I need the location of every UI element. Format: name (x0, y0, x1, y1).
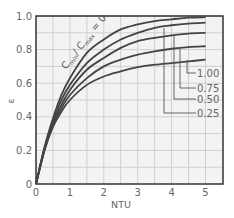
y-axis-ticks: 00.20.40.60.81.0 (16, 11, 32, 190)
y-tick-label: 0.8 (16, 44, 32, 55)
x-axis-ticks: 012345 (33, 187, 209, 198)
y-tick-label: 0 (26, 179, 32, 190)
curve-label: 0.25 (197, 108, 219, 119)
y-axis-label: ε (5, 98, 16, 103)
curve-label: 0.75 (197, 83, 219, 94)
x-tick-label: 4 (168, 187, 174, 198)
y-tick-label: 0.6 (16, 78, 32, 89)
y-tick-label: 1.0 (16, 11, 32, 22)
x-axis-label: NTU (111, 199, 131, 210)
x-tick-label: 5 (202, 187, 208, 198)
effectiveness-chart: 1.000.750.500.25 012345 00.20.40.60.81.0… (0, 0, 234, 218)
x-tick-label: 2 (101, 187, 107, 198)
x-tick-label: 1 (67, 187, 73, 198)
x-tick-label: 0 (33, 187, 39, 198)
y-tick-label: 0.4 (16, 111, 32, 122)
y-tick-label: 0.2 (16, 145, 32, 156)
curve-label: 0.50 (197, 94, 219, 105)
x-tick-label: 3 (135, 187, 141, 198)
curve-label: 1.00 (197, 68, 219, 79)
